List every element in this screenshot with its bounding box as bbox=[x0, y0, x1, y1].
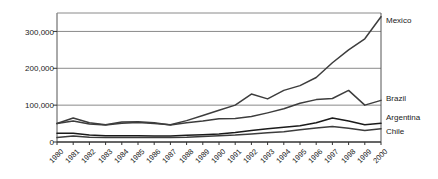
x-axis-ticks bbox=[57, 142, 381, 145]
series-label-argentina: Argentina bbox=[386, 113, 420, 122]
y-axis-ticks bbox=[53, 31, 57, 142]
series-label-brazil: Brazil bbox=[386, 94, 406, 103]
plot-background bbox=[57, 13, 381, 142]
line-chart: 300,000 200,000 100,000 0 19801981198219… bbox=[0, 0, 438, 179]
series-label-chile: Chile bbox=[386, 127, 404, 136]
series-label-mexico: Mexico bbox=[386, 16, 411, 25]
